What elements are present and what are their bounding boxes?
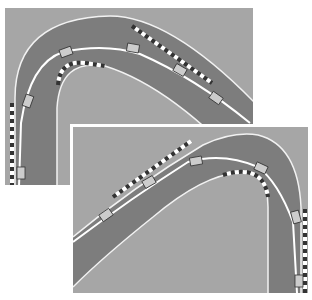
car-icon <box>189 156 202 166</box>
track-diagram-panel-2 <box>70 124 311 296</box>
track-diagram-2 <box>73 127 308 293</box>
car-icon <box>17 167 25 179</box>
car-icon <box>295 275 303 287</box>
car-icon <box>126 43 139 53</box>
